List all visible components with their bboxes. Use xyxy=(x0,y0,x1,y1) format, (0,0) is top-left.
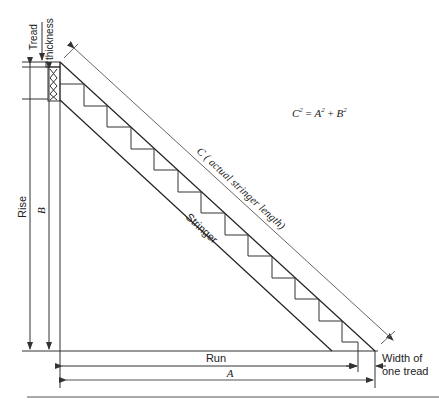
c-dimension-arrow xyxy=(74,48,393,340)
thickness-label: thickness xyxy=(44,18,55,60)
svg-text:Run: Run xyxy=(206,352,226,364)
a-label: A xyxy=(226,367,234,379)
c-extension-bottom xyxy=(381,331,395,344)
width-of-label: Width of xyxy=(382,352,423,364)
svg-text:B: B xyxy=(35,207,47,214)
run-label: Run xyxy=(206,352,226,364)
svg-text:one tread: one tread xyxy=(382,365,428,377)
tread-label: Tread xyxy=(28,24,39,50)
svg-text:Tread: Tread xyxy=(28,24,39,50)
svg-text:Width of: Width of xyxy=(382,352,423,364)
stair-stringer-diagram: Tread thickness Rise B Stringer C ( actu… xyxy=(0,0,439,407)
rise-label: Rise xyxy=(16,196,28,218)
one-tread-label: one tread xyxy=(382,365,428,377)
stringer-top-edge xyxy=(60,62,375,351)
stair-steps xyxy=(60,84,358,351)
stringer-label: Stringer xyxy=(184,211,221,246)
svg-text:C ( actual stringer length): C ( actual stringer length) xyxy=(194,145,288,233)
svg-text:Rise: Rise xyxy=(16,196,28,218)
top-header-post xyxy=(46,62,60,101)
svg-text:A: A xyxy=(226,367,234,379)
formula: C2 = A2 + B2 xyxy=(292,106,347,119)
c-extension-top xyxy=(64,44,78,58)
svg-text:Stringer: Stringer xyxy=(184,211,221,246)
c-label: C ( actual stringer length) xyxy=(194,145,288,233)
svg-text:thickness: thickness xyxy=(44,18,55,60)
b-label: B xyxy=(35,207,47,214)
